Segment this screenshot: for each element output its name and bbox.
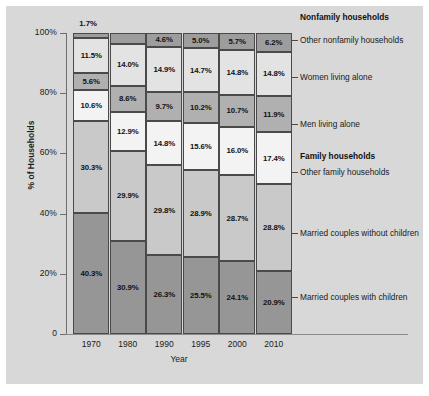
legend-leader-other-family bbox=[292, 172, 298, 173]
legend-leader-married-without bbox=[292, 233, 298, 234]
y-tick-label: 20% bbox=[40, 268, 57, 278]
segment-value-label: 30.9% bbox=[117, 283, 139, 292]
segment-2010-2[interactable]: 11.9% bbox=[256, 96, 292, 132]
segment-1995-0[interactable]: 5.0% bbox=[183, 33, 219, 48]
segment-2000-5[interactable]: 24.1% bbox=[219, 261, 255, 334]
bar-1970[interactable]: 1.7%11.5%5.6%10.6%30.3%40.3% bbox=[73, 33, 109, 334]
segment-value-label: 29.8% bbox=[153, 206, 175, 215]
segment-value-label: 28.9% bbox=[190, 209, 212, 218]
segment-1990-0[interactable]: 4.6% bbox=[146, 33, 182, 47]
y-tick-mark bbox=[60, 33, 67, 34]
legend-leader-women-alone bbox=[292, 77, 298, 78]
legend-header-family: Family households bbox=[300, 151, 375, 161]
segment-value-label: 20.9% bbox=[263, 298, 285, 307]
segment-2000-1[interactable]: 14.8% bbox=[219, 50, 255, 95]
segment-1980-2[interactable]: 8.6% bbox=[110, 86, 146, 112]
segment-1990-4[interactable]: 29.8% bbox=[146, 165, 182, 255]
segment-value-label: 10.6% bbox=[80, 101, 102, 110]
segment-value-label: 17.4% bbox=[263, 154, 285, 163]
segment-value-label: 9.7% bbox=[156, 102, 173, 111]
segment-1995-5[interactable]: 25.5% bbox=[183, 257, 219, 334]
segment-value-label: 14.7% bbox=[190, 66, 212, 75]
y-axis-line bbox=[66, 33, 67, 334]
segment-value-label: 12.9% bbox=[117, 127, 139, 136]
x-tick-label-2010: 2010 bbox=[252, 339, 296, 349]
segment-1995-2[interactable]: 10.2% bbox=[183, 92, 219, 123]
bar-1995[interactable]: 5.0%14.7%10.2%15.6%28.9%25.5% bbox=[183, 33, 219, 334]
legend-item-women-alone[interactable]: Women living alone bbox=[300, 72, 428, 82]
segment-1980-3[interactable]: 12.9% bbox=[110, 112, 146, 151]
y-tick-mark bbox=[60, 274, 67, 275]
segment-value-label: 11.9% bbox=[263, 110, 284, 119]
segment-1970-3[interactable]: 10.6% bbox=[73, 90, 109, 122]
segment-value-label: 5.7% bbox=[229, 37, 246, 46]
segment-value-label: 29.9% bbox=[117, 191, 139, 200]
segment-value-label: 25.5% bbox=[190, 291, 212, 300]
legend-item-other-nonfamily[interactable]: Other nonfamily households bbox=[300, 35, 428, 45]
segment-value-label: 5.6% bbox=[83, 77, 100, 86]
segment-1980-4[interactable]: 29.9% bbox=[110, 151, 146, 241]
segment-1990-5[interactable]: 26.3% bbox=[146, 255, 182, 334]
segment-1980-0[interactable]: 3.6% bbox=[110, 33, 146, 44]
segment-2010-0[interactable]: 6.2% bbox=[256, 33, 292, 52]
segment-value-label: 11.5% bbox=[81, 51, 102, 60]
segment-1990-2[interactable]: 9.7% bbox=[146, 92, 182, 121]
segment-value-label: 14.0% bbox=[117, 60, 139, 69]
segment-1980-5[interactable]: 30.9% bbox=[110, 241, 146, 334]
bar-1980[interactable]: 3.6%14.0%8.6%12.9%29.9%30.9% bbox=[110, 33, 146, 334]
segment-value-label: 16.0% bbox=[226, 146, 248, 155]
y-tick-label: 0 bbox=[52, 328, 57, 338]
segment-1995-1[interactable]: 14.7% bbox=[183, 48, 219, 92]
y-tick-label: 40% bbox=[40, 208, 57, 218]
segment-value-label: 30.3% bbox=[80, 163, 102, 172]
stacked-bar-chart: % of Households 100%80%60%40%20%0 197019… bbox=[0, 0, 429, 396]
y-tick-label: 80% bbox=[40, 87, 57, 97]
callout-1970-label: 1.7% bbox=[79, 19, 97, 28]
segment-value-label: 8.6% bbox=[119, 94, 136, 103]
bar-1990[interactable]: 4.6%14.9%9.7%14.8%29.8%26.3% bbox=[146, 33, 182, 334]
legend-item-men-alone[interactable]: Men living alone bbox=[300, 119, 428, 129]
segment-2000-4[interactable]: 28.7% bbox=[219, 175, 255, 261]
bar-2010[interactable]: 6.2%14.8%11.9%17.4%28.8%20.9% bbox=[256, 33, 292, 334]
segment-value-label: 14.8% bbox=[153, 139, 175, 148]
segment-value-label: 10.2% bbox=[190, 103, 212, 112]
segment-1990-1[interactable]: 14.9% bbox=[146, 47, 182, 92]
segment-2010-1[interactable]: 14.8% bbox=[256, 52, 292, 97]
bar-2000[interactable]: 5.7%14.8%10.7%16.0%28.7%24.1% bbox=[219, 33, 255, 334]
segment-value-label: 15.6% bbox=[190, 142, 212, 151]
legend-item-married-without-children[interactable]: Married couples without children bbox=[300, 228, 428, 238]
segment-2010-4[interactable]: 28.8% bbox=[256, 184, 292, 271]
segment-2010-3[interactable]: 17.4% bbox=[256, 132, 292, 184]
segment-1995-3[interactable]: 15.6% bbox=[183, 123, 219, 170]
y-axis-title: % of Households bbox=[26, 110, 36, 200]
segment-2000-3[interactable]: 16.0% bbox=[219, 127, 255, 175]
segment-1970-4[interactable]: 30.3% bbox=[73, 121, 109, 212]
segment-value-label: 14.8% bbox=[226, 68, 248, 77]
segment-1970-1[interactable]: 11.5% bbox=[73, 38, 109, 73]
legend-leader-other-nonfamily bbox=[292, 40, 298, 41]
y-tick-label: 100% bbox=[35, 27, 57, 37]
x-axis-title: Year bbox=[66, 354, 292, 364]
segment-value-label: 4.6% bbox=[156, 35, 173, 44]
segment-value-label: 28.8% bbox=[263, 223, 285, 232]
legend-leader-married-with bbox=[292, 297, 298, 298]
y-tick-label: 60% bbox=[40, 147, 57, 157]
legend-leader-men-alone bbox=[292, 124, 298, 125]
segment-value-label: 40.3% bbox=[80, 269, 102, 278]
legend-item-other-family[interactable]: Other family households bbox=[300, 167, 428, 177]
segment-2000-2[interactable]: 10.7% bbox=[219, 95, 255, 127]
segment-value-label: 10.7% bbox=[226, 106, 248, 115]
segment-value-label: 24.1% bbox=[226, 293, 248, 302]
segment-2010-5[interactable]: 20.9% bbox=[256, 271, 292, 334]
segment-1980-1[interactable]: 14.0% bbox=[110, 44, 146, 86]
segment-1970-2[interactable]: 5.6% bbox=[73, 73, 109, 90]
y-tick-mark bbox=[60, 153, 67, 154]
segment-1990-3[interactable]: 14.8% bbox=[146, 121, 182, 166]
segment-value-label: 6.2% bbox=[265, 38, 282, 47]
legend-item-married-with-children[interactable]: Married couples with children bbox=[300, 292, 428, 302]
segment-value-label: 28.7% bbox=[226, 214, 248, 223]
segment-2000-0[interactable]: 5.7% bbox=[219, 33, 255, 50]
legend-header-nonfamily: Nonfamily households bbox=[300, 12, 389, 22]
segment-1970-5[interactable]: 40.3% bbox=[73, 213, 109, 334]
segment-1995-4[interactable]: 28.9% bbox=[183, 170, 219, 257]
